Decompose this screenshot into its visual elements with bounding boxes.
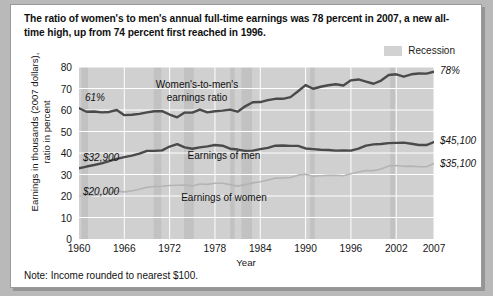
x-axis-tick: 1960 bbox=[68, 243, 91, 254]
y-axis-tick: 50 bbox=[61, 126, 72, 137]
annotation-ratio-end: 78% bbox=[440, 65, 460, 76]
y-axis-tick: 20 bbox=[61, 191, 72, 202]
y-axis-tick: 60 bbox=[61, 105, 72, 116]
y-axis-tick: 80 bbox=[61, 62, 72, 73]
y-axis-title-line2: ratio in percent bbox=[41, 42, 53, 222]
legend-label-recession: Recession bbox=[408, 45, 455, 56]
annotation-women-series: Earnings of women bbox=[181, 192, 267, 203]
x-axis-tick: 1978 bbox=[204, 243, 227, 254]
annotation-women-start: $20,000 bbox=[83, 186, 119, 197]
annotation-ratio-series-line2: earnings ratio bbox=[167, 92, 228, 103]
y-axis-tick: 30 bbox=[61, 169, 72, 180]
recession-swatch-icon bbox=[384, 46, 402, 56]
chart-figure: The ratio of women's to men's annual ful… bbox=[10, 4, 482, 288]
annotation-men-start: $32,900 bbox=[83, 152, 119, 163]
x-axis-tick: 1966 bbox=[113, 243, 136, 254]
x-axis-tick: 1972 bbox=[158, 243, 181, 254]
annotation-men-end: $45,100 bbox=[440, 135, 476, 146]
y-axis-tick: 10 bbox=[61, 212, 72, 223]
y-axis-title: Earnings in thousands (2007 dollars), ra… bbox=[29, 42, 53, 222]
chart-title: The ratio of women's to men's annual ful… bbox=[24, 12, 468, 39]
y-axis-tick: 40 bbox=[61, 148, 72, 159]
x-axis-tick: 2002 bbox=[385, 243, 408, 254]
x-axis-tick: 1990 bbox=[294, 243, 317, 254]
annotation-ratio-start: 61% bbox=[85, 92, 105, 103]
x-axis-tick: 1984 bbox=[249, 243, 272, 254]
y-axis-title-line1: Earnings in thousands (2007 dollars), bbox=[29, 42, 41, 222]
chart-legend: Recession bbox=[384, 45, 455, 56]
y-axis-tick: 70 bbox=[61, 83, 72, 94]
y-axis: Earnings in thousands (2007 dollars), ra… bbox=[11, 60, 79, 250]
series-line-2 bbox=[79, 164, 434, 196]
annotation-men-series: Earnings of men bbox=[188, 150, 261, 161]
x-axis-tick: 1996 bbox=[340, 243, 363, 254]
x-axis-title: Year bbox=[11, 257, 481, 268]
x-axis-tick: 2007 bbox=[423, 243, 446, 254]
annotation-ratio-series-line1: Women's-to-men's bbox=[156, 79, 239, 90]
chart-note: Note: Income rounded to nearest $100. bbox=[24, 270, 198, 281]
annotation-women-end: $35,100 bbox=[440, 158, 476, 169]
